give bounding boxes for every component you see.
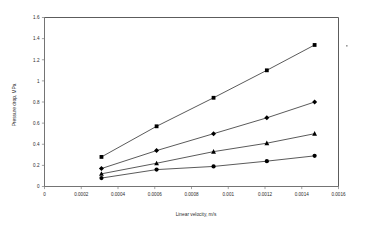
- y-tick-label: 1: [37, 79, 40, 84]
- x-tick-label: 0: [43, 192, 46, 197]
- data-series-2: [99, 100, 317, 172]
- x-axis-title: Linear velocity, m/s: [176, 212, 217, 217]
- data-series-4: [99, 154, 316, 180]
- data-point-square: [100, 155, 104, 159]
- y-tick-label: 0: [37, 184, 40, 189]
- x-tick-label: 0.001: [223, 192, 235, 197]
- data-point-diamond: [312, 100, 317, 105]
- x-tick-label: 0.0008: [184, 192, 198, 197]
- x-tick-label: 0.0004: [111, 192, 125, 197]
- data-point-circle: [211, 164, 215, 168]
- data-series-1: [100, 43, 317, 159]
- x-tick-label: 0.0016: [331, 192, 345, 197]
- y-tick-label: 0.6: [33, 121, 40, 126]
- pressure-drop-vs-velocity-chart: 00.00020.00040.00060.00080.0010.00120.00…: [0, 0, 371, 225]
- x-tick-label: 0.0014: [295, 192, 309, 197]
- x-tick-label: 0.0012: [258, 192, 272, 197]
- y-tick-label: 1.4: [33, 36, 40, 41]
- data-series-3: [99, 131, 317, 176]
- series-line: [101, 134, 314, 174]
- data-point-square: [212, 96, 216, 100]
- data-point-circle: [265, 159, 269, 163]
- x-axis-tick-labels: 00.00020.00040.00060.00080.0010.00120.00…: [43, 192, 346, 197]
- data-point-diamond: [264, 115, 269, 120]
- data-point-circle: [313, 154, 317, 158]
- chart-figure: 00.00020.00040.00060.00080.0010.00120.00…: [0, 0, 371, 225]
- data-point-square: [265, 68, 269, 72]
- data-point-diamond: [154, 148, 159, 153]
- data-point-triangle: [312, 131, 317, 136]
- y-axis-title: Pressure drop, MPa: [12, 83, 17, 126]
- plot-frame: [45, 18, 339, 187]
- data-point-circle: [99, 176, 103, 180]
- y-tick-label: 0.4: [33, 142, 40, 147]
- y-tick-label: 1.2: [33, 58, 40, 63]
- y-tick-label: 1.6: [33, 15, 40, 20]
- y-tick-label: 0.8: [33, 100, 40, 105]
- series-line: [101, 102, 314, 169]
- x-tick-label: 0.0002: [74, 192, 88, 197]
- series-line: [101, 156, 314, 178]
- data-point-circle: [154, 168, 158, 172]
- data-point-square: [155, 124, 159, 128]
- data-point-diamond: [211, 131, 216, 136]
- data-point-square: [313, 43, 317, 47]
- y-tick-label: 0.2: [33, 163, 40, 168]
- data-point-diamond: [99, 166, 104, 171]
- stray-speck-mark: [346, 45, 348, 47]
- y-axis-tick-labels: 00.20.40.60.811.21.41.6: [33, 15, 40, 189]
- data-series-layer: [99, 43, 317, 180]
- x-tick-label: 0.0006: [148, 192, 162, 197]
